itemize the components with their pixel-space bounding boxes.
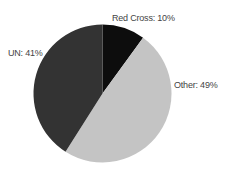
pie-slices [33,25,171,163]
pie-chart: Red Cross: 10% Other: 49% UN: 41% [0,0,227,176]
label-red-cross: Red Cross: 10% [112,13,175,23]
label-other: Other: 49% [174,80,218,90]
label-un: UN: 41% [8,48,43,58]
